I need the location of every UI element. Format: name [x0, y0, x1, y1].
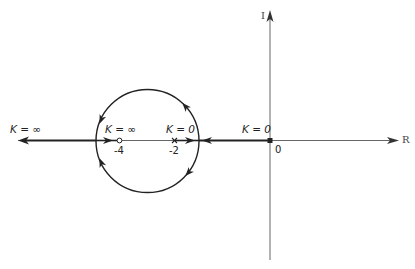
root-locus-diagram [0, 0, 415, 269]
gain-label-zero-infinity: K = ∞ [105, 124, 136, 135]
locus-pole-b-to-breakaway [199, 137, 270, 144]
origin-pole-marker-icon [268, 138, 273, 143]
locus-to-zero [96, 137, 117, 144]
gain-label-pole-b: K = 0 [242, 124, 271, 135]
pole-a-value-label: -2 [169, 146, 179, 156]
real-axis-label: R [402, 135, 410, 145]
locus-left-ray [18, 137, 96, 145]
zero-value-label: -4 [114, 146, 124, 156]
circle-arrow-lower-left-icon [96, 157, 106, 168]
gain-label-pole-a: K = 0 [166, 124, 195, 135]
zero-marker-icon [117, 138, 122, 143]
origin-label: 0 [275, 145, 281, 155]
imag-axis-label: I [261, 11, 265, 21]
imaginary-axis [267, 10, 274, 260]
locus-pole-a-to-breakaway [175, 137, 199, 144]
gain-label-left-infinity: K = ∞ [10, 124, 41, 135]
